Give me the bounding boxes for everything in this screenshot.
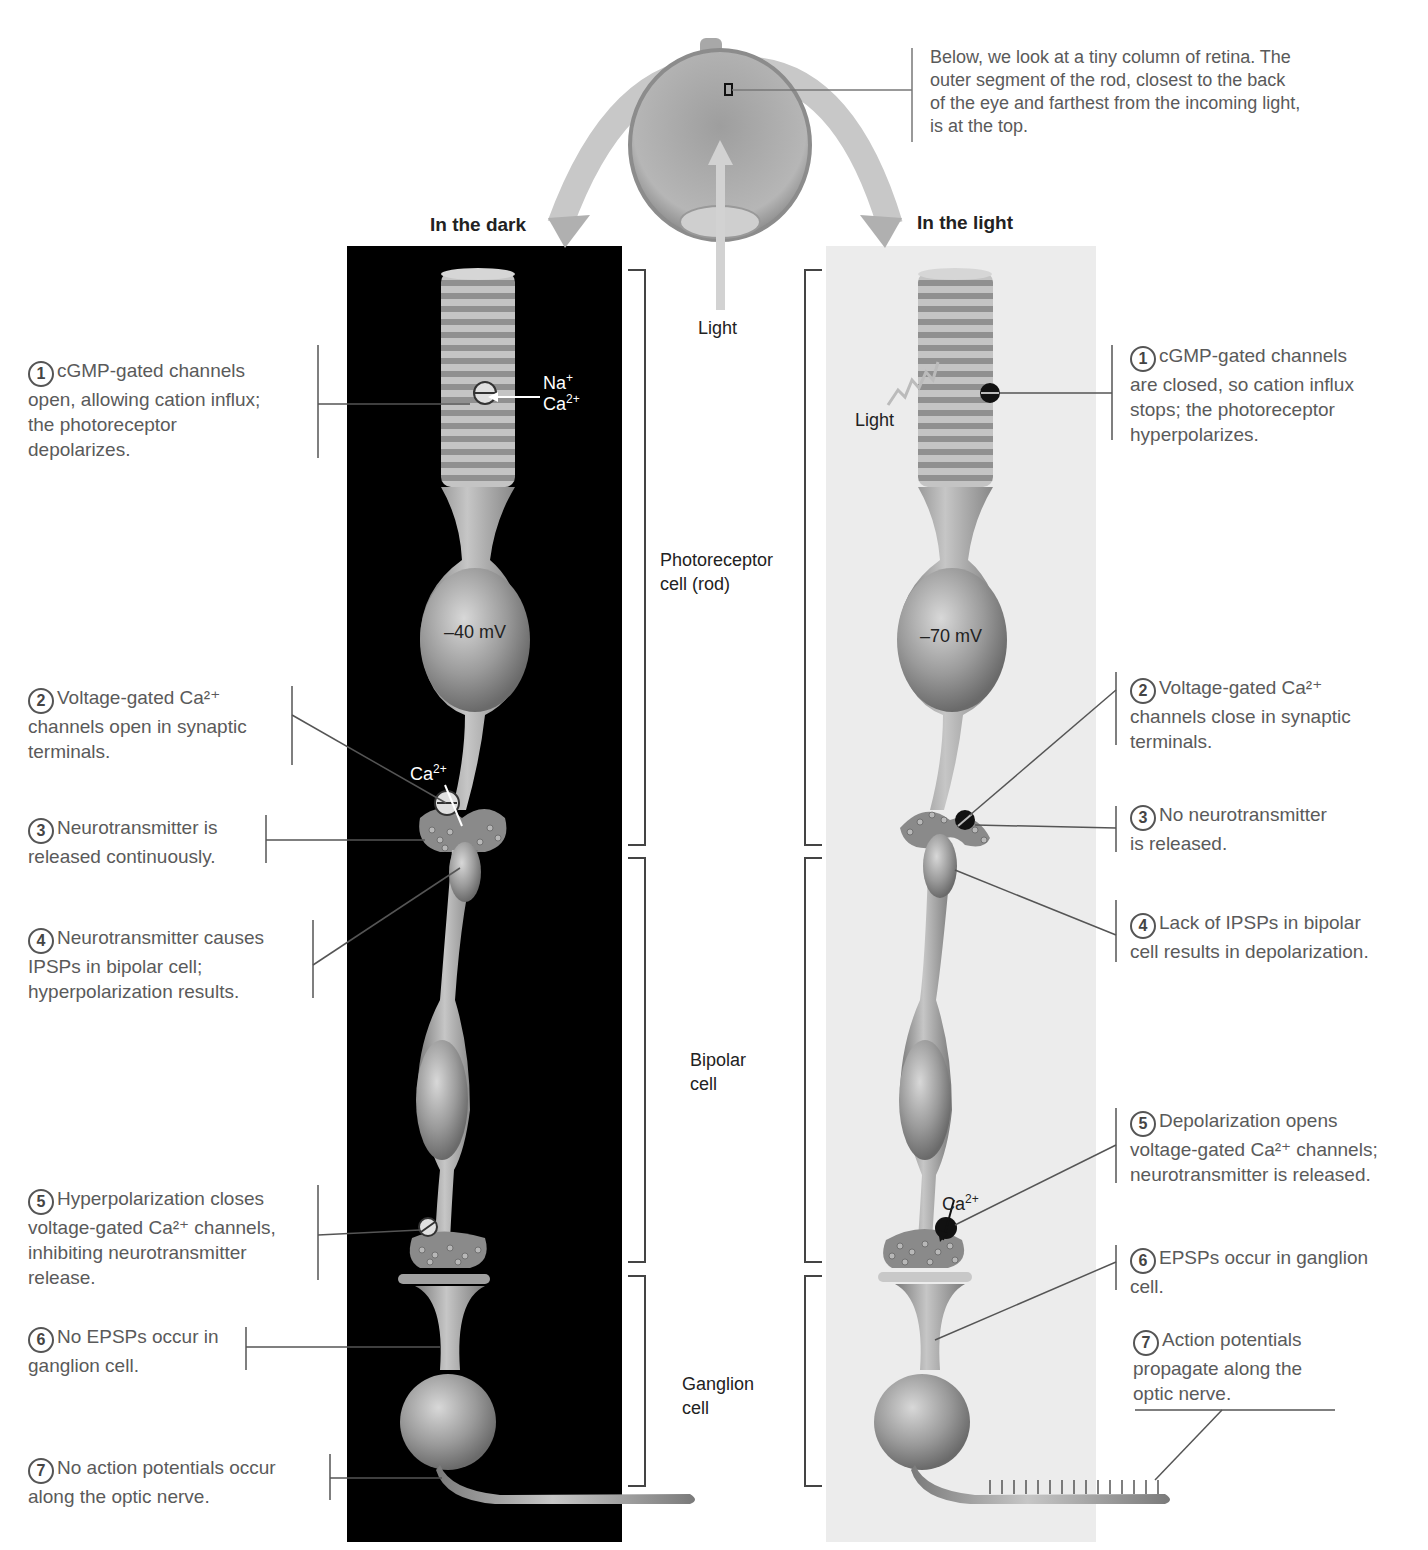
label-line: cell <box>690 1072 746 1096</box>
step-text: ganglion cell. <box>28 1355 139 1376</box>
step-text: open, allowing cation influx; <box>28 389 260 410</box>
step-text: hyperpolarization results. <box>28 981 239 1002</box>
dark-step-7: 7No action potentials occur along the op… <box>28 1455 328 1509</box>
dark-step-6: 6No EPSPs occur in ganglion cell. <box>28 1324 248 1378</box>
label-line: Bipolar <box>690 1048 746 1072</box>
center-brackets <box>628 270 822 1486</box>
step-number: 4 <box>28 928 54 954</box>
step-text: channels open in synaptic <box>28 716 247 737</box>
eye-note-line: of the eye and farthest from the incomin… <box>930 92 1300 115</box>
step-text: along the optic nerve. <box>28 1486 210 1507</box>
light-step-7: 7Action potentials propagate along the o… <box>1133 1327 1373 1406</box>
light-stimulus-label: Light <box>855 410 894 431</box>
step-text: cGMP-gated channels <box>57 360 245 381</box>
label-line: Ganglion <box>682 1372 754 1396</box>
ca-ion-label: Ca2+ <box>543 392 580 415</box>
light-step-3: 3No neurotransmitter is released. <box>1130 802 1390 856</box>
eye-description: Below, we look at a tiny column of retin… <box>930 46 1300 138</box>
step-text: Voltage-gated Ca²⁺ <box>1159 677 1322 698</box>
label-line: Photoreceptor <box>660 548 773 572</box>
step-number: 3 <box>1130 805 1156 831</box>
step-text: neurotransmitter is released. <box>1130 1164 1371 1185</box>
label-line: cell (rod) <box>660 572 773 596</box>
step-text: are closed, so cation influx <box>1130 374 1354 395</box>
step-text: No action potentials occur <box>57 1457 276 1478</box>
step-text: hyperpolarizes. <box>1130 424 1259 445</box>
incoming-light-label: Light <box>698 318 737 339</box>
step-number: 1 <box>28 361 54 387</box>
step-text: terminals. <box>28 741 110 762</box>
eye-note-line: is at the top. <box>930 115 1300 138</box>
photoreceptor-label: Photoreceptor cell (rod) <box>656 548 777 596</box>
step-text: inhibiting neurotransmitter <box>28 1242 247 1263</box>
step-text: No neurotransmitter <box>1159 804 1327 825</box>
step-text: EPSPs occur in ganglion <box>1159 1247 1368 1268</box>
dark-step-1: 1cGMP-gated channels open, allowing cati… <box>28 358 328 462</box>
step-text: Neurotransmitter causes <box>57 927 264 948</box>
step-number: 6 <box>28 1327 54 1353</box>
step-text: terminals. <box>1130 731 1212 752</box>
eye-illustration <box>548 38 912 310</box>
step-text: voltage-gated Ca²⁺ channels; <box>1130 1139 1378 1160</box>
light-rod-cell <box>874 268 1170 1504</box>
ion-name: Na <box>543 373 566 393</box>
ion-charge: 2+ <box>433 762 447 776</box>
eye-note-line: Below, we look at a tiny column of retin… <box>930 46 1300 69</box>
step-number: 3 <box>28 818 54 844</box>
step-text: Voltage-gated Ca²⁺ <box>57 687 220 708</box>
step-text: the photoreceptor <box>28 414 177 435</box>
light-step-5: 5Depolarization opens voltage-gated Ca²⁺… <box>1130 1108 1425 1187</box>
step-number: 5 <box>1130 1111 1156 1137</box>
ganglion-label: Ganglion cell <box>678 1372 758 1420</box>
step-number: 6 <box>1130 1248 1156 1274</box>
step-text: stops; the photoreceptor <box>1130 399 1335 420</box>
ion-name: Ca <box>942 1194 965 1214</box>
step-number: 2 <box>28 688 54 714</box>
dark-step-4: 4Neurotransmitter causes IPSPs in bipola… <box>28 925 318 1004</box>
step-text: is released. <box>1130 833 1227 854</box>
dark-voltage: –40 mV <box>444 622 506 643</box>
light-step-4: 4Lack of IPSPs in bipolar cell results i… <box>1130 910 1425 964</box>
step-text: released continuously. <box>28 846 216 867</box>
label-line: cell <box>682 1396 754 1420</box>
step-text: Neurotransmitter is <box>57 817 218 838</box>
step-number: 1 <box>1130 346 1156 372</box>
ion-charge: 2+ <box>965 1192 979 1206</box>
light-step-2: 2Voltage-gated Ca²⁺ channels close in sy… <box>1130 675 1410 754</box>
step-text: cell results in depolarization. <box>1130 941 1369 962</box>
diagram-graphics <box>0 0 1428 1550</box>
dark-step-2: 2Voltage-gated Ca²⁺ channels open in syn… <box>28 685 298 764</box>
ion-charge: + <box>566 371 573 385</box>
step-text: depolarizes. <box>28 439 130 460</box>
light-step-1: 1cGMP-gated channels are closed, so cati… <box>1130 343 1420 447</box>
dark-step-5: 5Hyperpolarization closes voltage-gated … <box>28 1186 323 1290</box>
step-text: Lack of IPSPs in bipolar <box>1159 912 1361 933</box>
ca-synapse-label: Ca2+ <box>410 762 447 785</box>
step-number: 7 <box>1133 1330 1159 1356</box>
ca-light-label: Ca2+ <box>942 1192 979 1215</box>
step-number: 5 <box>28 1189 54 1215</box>
step-text: propagate along the <box>1133 1358 1302 1379</box>
step-number: 7 <box>28 1458 54 1484</box>
step-text: Depolarization opens <box>1159 1110 1338 1131</box>
step-text: No EPSPs occur in <box>57 1326 219 1347</box>
ion-charge: 2+ <box>566 392 580 406</box>
step-text: cGMP-gated channels <box>1159 345 1347 366</box>
eye-note-line: outer segment of the rod, closest to the… <box>930 69 1300 92</box>
ion-name: Ca <box>543 394 566 414</box>
dark-step-3: 3Neurotransmitter is released continuous… <box>28 815 268 869</box>
dark-rod-cell <box>398 268 695 1504</box>
step-text: optic nerve. <box>1133 1383 1231 1404</box>
step-text: voltage-gated Ca²⁺ channels, <box>28 1217 276 1238</box>
step-number: 2 <box>1130 678 1156 704</box>
ion-name: Ca <box>410 764 433 784</box>
step-text: Hyperpolarization closes <box>57 1188 264 1209</box>
light-voltage: –70 mV <box>920 626 982 647</box>
step-text: Action potentials <box>1162 1329 1301 1350</box>
step-text: channels close in synaptic <box>1130 706 1351 727</box>
step-text: release. <box>28 1267 96 1288</box>
step-text: IPSPs in bipolar cell; <box>28 956 202 977</box>
step-text: cell. <box>1130 1276 1164 1297</box>
na-ion-label: Na+ <box>543 371 573 394</box>
step-number: 4 <box>1130 913 1156 939</box>
